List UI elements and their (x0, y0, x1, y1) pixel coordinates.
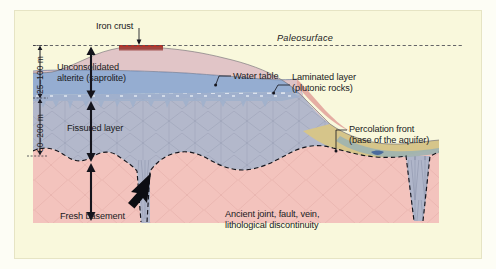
laminated-layer-label-line1: Laminated layer (292, 72, 356, 82)
fissured-layer-label: Fissured layer (67, 123, 123, 133)
unconsolidated-label-line1: Unconsolidated (57, 62, 119, 72)
ancient-joint-label-line2: lithological discontinuity (225, 220, 318, 230)
scale-label-lower: 50–200 m (36, 114, 45, 152)
iron-crust-leader (137, 28, 142, 45)
figure-root: Iron crust Paleosurface Unconsolidated a… (0, 0, 496, 269)
fresh-basement-label: Fresh basement (60, 211, 125, 221)
unconsolidated-label-line2: alterite (saprolite) (57, 73, 126, 83)
iron-crust-band-shadow (119, 49, 163, 51)
iron-crust-label: Iron crust (96, 21, 133, 31)
laminated-layer-label-line2: (plutonic rocks) (292, 83, 353, 93)
water-table-label: Water table (233, 71, 279, 81)
ancient-joint-label-line1: Ancient joint, fault, vein, (225, 209, 319, 219)
percolation-front-label-line2: (base of the aquifer) (349, 135, 429, 145)
scale-label-upper: 25–100 m (36, 56, 45, 94)
paleosurface-label: Paleosurface (277, 33, 333, 43)
percolation-front-label-line1: Percolation front (349, 124, 414, 134)
